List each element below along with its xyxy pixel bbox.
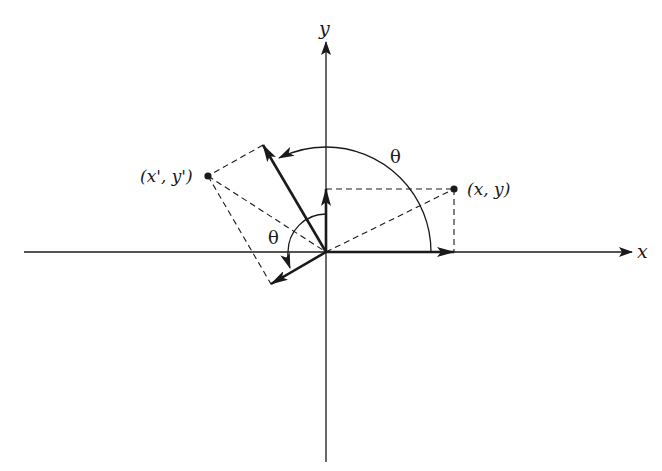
rotation-diagram: x y (x, y) (x', y') θ θ xyxy=(0,0,662,471)
x-axis-label: x xyxy=(637,240,648,262)
y-axis-label: y xyxy=(318,17,330,39)
small-angle-label: θ xyxy=(268,227,279,248)
original-point-projections xyxy=(326,189,454,252)
original-point-label: (x, y) xyxy=(467,179,510,199)
rotated-point-dot xyxy=(204,172,211,179)
rotated-point-label: (x', y') xyxy=(140,166,193,186)
large-angle-label: θ xyxy=(390,146,401,167)
rotated-vector-y xyxy=(271,252,326,284)
original-point-dot xyxy=(450,185,457,192)
